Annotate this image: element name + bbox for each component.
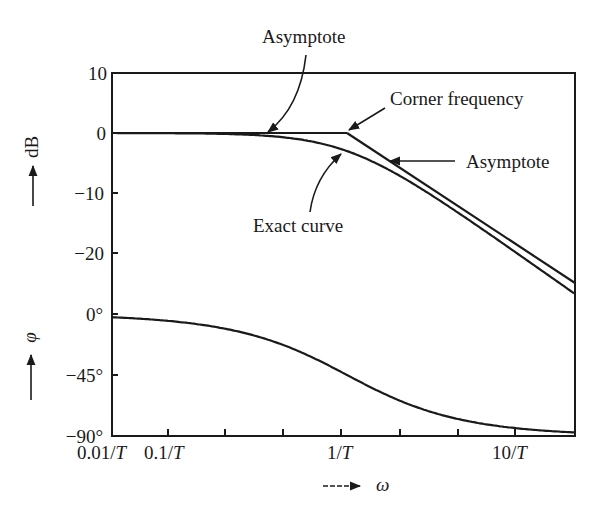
asymptote-arrow-1	[268, 55, 306, 132]
ytick-minus10: −10	[44, 184, 104, 203]
xtick-0.1-over-T: 0.1/T	[144, 443, 184, 462]
annotation-exact-curve: Exact curve	[253, 216, 343, 235]
y-axis-label-db: dB	[22, 136, 41, 158]
x-ticks	[168, 429, 515, 436]
xtick-10-over-T: 10/T	[492, 443, 527, 462]
ytick-phase-minus45: −45°	[43, 366, 103, 385]
annotation-corner-frequency: Corner frequency	[390, 89, 523, 108]
phase-curve	[112, 317, 574, 432]
ytick-minus20: −20	[44, 244, 104, 263]
plot-frame	[112, 73, 575, 436]
annotation-asymptote-top: Asymptote	[262, 27, 345, 46]
ytick-10: 10	[47, 64, 107, 83]
ytick-phase-0: 0°	[43, 305, 103, 324]
exact-curve-arrow	[310, 154, 341, 212]
xtick-1-over-T: 1/T	[327, 443, 352, 462]
ytick-0: 0	[46, 124, 106, 143]
y-axis-label-phi: φ	[20, 332, 39, 343]
xtick-0.01-over-T: 0.01/T	[77, 443, 126, 462]
annotation-asymptote-right: Asymptote	[466, 152, 549, 171]
x-axis-label-omega: ω	[376, 475, 389, 494]
corner-arrow	[349, 108, 385, 130]
